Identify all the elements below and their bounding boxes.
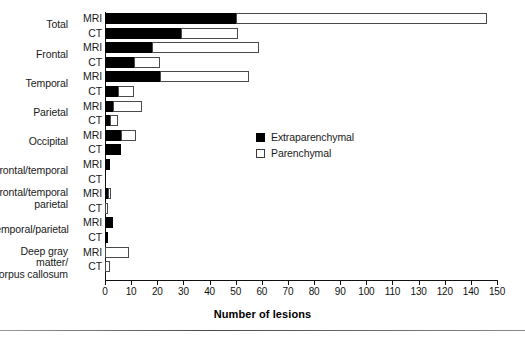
bar-segment-extraparenchymal — [105, 232, 108, 243]
row-label-ct: CT — [72, 202, 102, 214]
bar-row — [105, 188, 497, 200]
bar-segment-extraparenchymal — [105, 130, 121, 141]
bar-row — [105, 57, 497, 69]
x-tick — [497, 280, 498, 285]
bar-row — [105, 247, 497, 259]
bar-segment-extraparenchymal — [105, 57, 134, 68]
bar-row — [105, 101, 497, 113]
legend-label-parenchymal: Parenchymal — [271, 147, 331, 159]
bar-segment-parenchymal — [105, 261, 110, 272]
bar-segment-extraparenchymal — [105, 101, 113, 112]
bar-segment-parenchymal — [181, 28, 238, 39]
row-label-mri: MRI — [72, 129, 102, 141]
x-tick — [262, 280, 263, 285]
row-label-ct: CT — [72, 260, 102, 272]
row-label-mri: MRI — [72, 246, 102, 258]
x-axis-title: Number of lesions — [0, 308, 525, 320]
category-label: Temporal/parietal — [0, 224, 68, 236]
x-tick-label: 30 — [169, 286, 197, 297]
row-label-ct: CT — [72, 85, 102, 97]
bar-segment-parenchymal — [110, 115, 118, 126]
row-label-ct: CT — [72, 231, 102, 243]
x-tick — [183, 280, 184, 285]
bar-row — [105, 115, 497, 127]
bar-segment-extraparenchymal — [105, 13, 236, 24]
bar-row — [105, 28, 497, 40]
bar-segment-parenchymal — [118, 86, 134, 97]
x-tick — [288, 280, 289, 285]
legend-label-extraparenchymal: Extraparenchymal — [271, 131, 354, 143]
bar-row — [105, 71, 497, 83]
x-tick — [105, 280, 106, 285]
x-tick — [392, 280, 393, 285]
category-label: Frontal/temporalparietal — [0, 187, 68, 210]
bar-segment-parenchymal — [108, 188, 111, 199]
x-tick-label: 80 — [300, 286, 328, 297]
row-label-ct: CT — [72, 114, 102, 126]
x-tick — [157, 280, 158, 285]
bar-segment-parenchymal — [105, 247, 129, 258]
x-tick — [314, 280, 315, 285]
row-label-ct: CT — [72, 173, 102, 185]
category-label: Temporal — [0, 78, 68, 90]
bar-segment-parenchymal — [121, 130, 137, 141]
x-tick-label: 110 — [378, 286, 406, 297]
bar-segment-extraparenchymal — [105, 71, 160, 82]
bar-row — [105, 261, 497, 273]
x-tick-label: 150 — [483, 286, 511, 297]
x-tick-label: 90 — [326, 286, 354, 297]
x-tick-label: 20 — [143, 286, 171, 297]
x-tick-label: 120 — [431, 286, 459, 297]
figure-stacked-bar-chart: 0102030405060708090100110130120140150 MR… — [0, 0, 525, 338]
row-label-mri: MRI — [72, 100, 102, 112]
x-tick — [445, 280, 446, 285]
x-tick-label: 0 — [91, 286, 119, 297]
x-tick — [419, 280, 420, 285]
x-tick-label: 70 — [274, 286, 302, 297]
row-label-mri: MRI — [72, 216, 102, 228]
bar-segment-parenchymal — [113, 101, 142, 112]
x-tick-label: 130 — [405, 286, 433, 297]
bar-segment-extraparenchymal — [105, 217, 113, 228]
bar-row — [105, 86, 497, 98]
x-tick-label: 40 — [196, 286, 224, 297]
bar-row — [105, 174, 497, 186]
x-tick — [210, 280, 211, 285]
bar-segment-parenchymal — [236, 13, 487, 24]
x-tick-label: 50 — [222, 286, 250, 297]
legend-item-parenchymal: Parenchymal — [256, 146, 354, 160]
bar-row — [105, 42, 497, 54]
row-label-mri: MRI — [72, 41, 102, 53]
bar-segment-extraparenchymal — [105, 28, 181, 39]
footer-divider — [0, 330, 525, 331]
category-label: Occipital — [0, 136, 68, 148]
legend-swatch-extraparenchymal — [256, 133, 265, 142]
category-label: Frontal/temporal — [0, 165, 68, 177]
row-label-ct: CT — [72, 143, 102, 155]
row-label-ct: CT — [72, 56, 102, 68]
bar-segment-parenchymal — [105, 203, 108, 214]
x-tick-label: 100 — [352, 286, 380, 297]
category-label: Deep gray matter/corpus callosum — [0, 246, 68, 281]
legend-swatch-parenchymal — [256, 149, 265, 158]
x-axis-line — [105, 280, 498, 281]
category-label: Total — [0, 19, 68, 31]
legend-item-extraparenchymal: Extraparenchymal — [256, 130, 354, 144]
category-label: Parietal — [0, 107, 68, 119]
x-tick — [471, 280, 472, 285]
bar-segment-parenchymal — [134, 57, 160, 68]
legend: Extraparenchymal Parenchymal — [256, 130, 354, 162]
x-tick — [366, 280, 367, 285]
bar-row — [105, 232, 497, 244]
row-label-mri: MRI — [72, 12, 102, 24]
x-tick — [236, 280, 237, 285]
x-tick-label: 60 — [248, 286, 276, 297]
bar-segment-extraparenchymal — [105, 42, 152, 53]
x-tick-label: 10 — [117, 286, 145, 297]
row-label-ct: CT — [72, 27, 102, 39]
bar-segment-parenchymal — [160, 71, 249, 82]
bar-segment-extraparenchymal — [105, 86, 118, 97]
row-label-mri: MRI — [72, 70, 102, 82]
x-tick-label: 140 — [457, 286, 485, 297]
x-tick — [131, 280, 132, 285]
